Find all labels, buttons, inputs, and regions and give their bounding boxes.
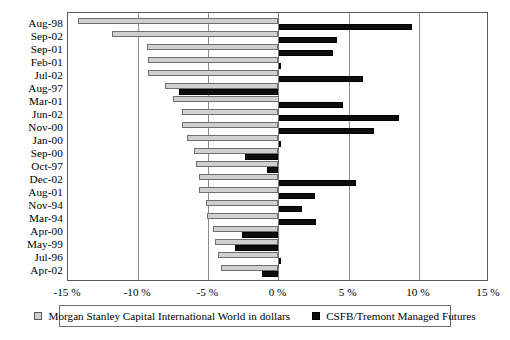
- y-axis-label: Jul-96: [34, 251, 63, 264]
- y-axis-labels: Aug-98Sep-02Sep-01Feb-01Jul-02Aug-97Mar-…: [0, 12, 63, 281]
- bar-csfb: [279, 50, 334, 56]
- y-axis-label: Oct-97: [31, 160, 63, 173]
- y-axis-label: Mar-01: [29, 95, 63, 108]
- bar-msci: [218, 252, 278, 258]
- y-axis-label: Jun-02: [32, 108, 63, 121]
- bar-csfb: [279, 128, 374, 134]
- bar-csfb: [279, 193, 315, 199]
- bar-msci: [199, 187, 279, 193]
- y-axis-label: Dec-02: [29, 173, 63, 186]
- x-axis-tick-label: 0 %: [269, 284, 287, 300]
- bar-msci: [207, 213, 279, 219]
- y-axis-label: Sep-00: [31, 147, 63, 160]
- y-axis-label: Feb-01: [31, 56, 63, 69]
- bar-chart: Aug-98Sep-02Sep-01Feb-01Jul-02Aug-97Mar-…: [0, 0, 510, 340]
- bar-csfb: [279, 76, 363, 82]
- y-axis-label: Aug-98: [28, 17, 63, 30]
- bar-csfb: [262, 271, 279, 277]
- gridline--10: [138, 13, 139, 280]
- y-axis-label: Apr-02: [30, 264, 63, 277]
- y-axis-label: May-99: [27, 238, 63, 251]
- chart-legend: Morgan Stanley Capital International Wor…: [59, 305, 451, 327]
- bar-msci: [199, 174, 279, 180]
- x-axis-tick-label: -15 %: [53, 284, 80, 300]
- bar-csfb: [179, 89, 279, 95]
- x-axis-tick-label: -10 %: [124, 284, 151, 300]
- bar-msci: [196, 161, 279, 167]
- bar-csfb: [279, 206, 303, 212]
- x-axis-tick-label: 5 %: [339, 284, 357, 300]
- bar-csfb: [279, 141, 281, 147]
- bar-csfb: [279, 180, 356, 186]
- y-axis-label: Aug-01: [28, 186, 63, 199]
- bar-csfb: [242, 232, 278, 238]
- bar-msci: [182, 122, 279, 128]
- bar-msci: [147, 44, 279, 50]
- x-axis-labels: -15 %-10 %-5 %0 %5 %10 %15 %: [0, 284, 510, 300]
- bar-msci: [182, 109, 279, 115]
- bar-csfb: [279, 37, 338, 43]
- legend-item-csfb: CSFB/Tremont Managed Futures: [312, 310, 475, 322]
- y-axis-label: Aug-97: [28, 82, 63, 95]
- y-axis-label: Sep-01: [31, 43, 63, 56]
- y-axis-label: Sep-02: [31, 30, 63, 43]
- bar-csfb: [235, 245, 279, 251]
- bar-msci: [187, 135, 278, 141]
- y-axis-label: Nov-00: [28, 121, 63, 134]
- bar-msci: [148, 70, 279, 76]
- y-axis-label: Apr-00: [30, 225, 63, 238]
- bar-csfb: [279, 63, 281, 69]
- legend-label-csfb: CSFB/Tremont Managed Futures: [326, 310, 475, 322]
- legend-swatch-black-icon: [312, 312, 320, 320]
- bar-csfb: [279, 258, 281, 264]
- y-axis-label: Nov-94: [28, 199, 63, 212]
- bar-csfb: [267, 167, 278, 173]
- gridline-10: [419, 13, 420, 280]
- bar-msci: [206, 200, 279, 206]
- gridline-5: [349, 13, 350, 280]
- bar-msci: [148, 57, 279, 63]
- legend-label-msci: Morgan Stanley Capital International Wor…: [48, 310, 290, 322]
- gridline--5: [208, 13, 209, 280]
- bar-msci: [173, 96, 278, 102]
- x-axis-tick-label: 10 %: [406, 284, 429, 300]
- y-axis-label: Jul-02: [34, 69, 63, 82]
- bar-csfb: [279, 24, 412, 30]
- x-axis-tick-label: -5 %: [197, 284, 218, 300]
- bar-csfb: [279, 115, 400, 121]
- y-axis-label: Jan-00: [33, 134, 63, 147]
- y-axis-label: Mar-94: [29, 212, 63, 225]
- x-axis-tick-label: 15 %: [476, 284, 499, 300]
- legend-swatch-gray-icon: [34, 312, 42, 320]
- legend-item-msci: Morgan Stanley Capital International Wor…: [34, 310, 290, 322]
- bar-csfb: [279, 219, 317, 225]
- bar-msci: [78, 18, 279, 24]
- bar-csfb: [245, 154, 279, 160]
- plot-area: [67, 12, 488, 281]
- bar-csfb: [279, 102, 344, 108]
- bar-msci: [112, 31, 279, 37]
